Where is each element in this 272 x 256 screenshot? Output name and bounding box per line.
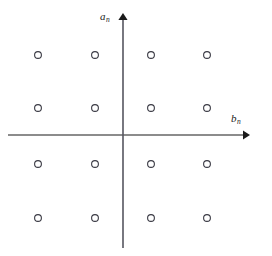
data-point	[92, 215, 99, 222]
vertical-axis-label-symbol: a	[100, 10, 106, 22]
horizontal-axis-label-subscript: n	[237, 117, 241, 126]
data-point	[92, 52, 99, 59]
horizontal-axis-label-symbol: b	[231, 112, 237, 124]
data-point	[204, 161, 211, 168]
data-point	[148, 161, 155, 168]
data-point	[148, 52, 155, 59]
horizontal-axis-label: bn	[231, 113, 240, 124]
data-point	[148, 215, 155, 222]
vertical-axis-label-subscript: n	[106, 15, 110, 24]
data-point	[204, 52, 211, 59]
data-point	[35, 161, 42, 168]
constellation-diagram: an bn	[0, 0, 272, 256]
data-point	[148, 105, 155, 112]
horizontal-axis	[8, 131, 250, 140]
data-point	[204, 105, 211, 112]
data-point	[35, 105, 42, 112]
data-point	[35, 215, 42, 222]
vertical-axis-arrowhead-icon	[118, 13, 127, 20]
data-point	[204, 215, 211, 222]
plot-canvas	[0, 0, 272, 256]
data-point	[92, 161, 99, 168]
data-point	[92, 105, 99, 112]
vertical-axis	[118, 13, 127, 248]
vertical-axis-label: an	[100, 11, 109, 22]
data-point	[35, 52, 42, 59]
horizontal-axis-arrowhead-icon	[243, 131, 250, 140]
